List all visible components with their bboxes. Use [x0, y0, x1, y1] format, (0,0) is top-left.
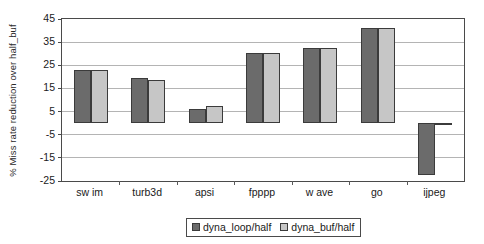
y-axis-tick	[58, 65, 62, 66]
x-axis-tick-label: go	[371, 186, 383, 198]
bar-chart: % Miss rate reduction over half_buf 4535…	[0, 0, 484, 244]
bar-apsi-dyna-loop-half	[189, 109, 206, 123]
bar-ijpeg-dyna-buf-half	[435, 123, 452, 125]
legend-swatch-icon	[192, 223, 200, 231]
legend-entry[interactable]: dyna_loop/half	[192, 222, 271, 233]
plot-area	[61, 18, 465, 182]
y-axis-tick-label: -5	[46, 129, 55, 139]
x-axis-tick	[177, 181, 178, 185]
y-axis-tick-labels: 453525155-5-15-25	[24, 18, 58, 182]
x-axis-tick-label: w ave	[306, 186, 333, 198]
x-axis-tick	[234, 181, 235, 185]
x-axis-tick-label: ijpeg	[423, 186, 445, 198]
y-axis-tick	[58, 181, 62, 182]
x-axis-tick-label: fpppp	[249, 186, 275, 198]
y-axis-tick-label: 5	[49, 106, 55, 116]
x-axis-tick	[292, 181, 293, 185]
bar-fpppp-dyna-buf-half	[263, 53, 280, 124]
bar-ijpeg-dyna-loop-half	[418, 123, 435, 175]
bar-swim-dyna-buf-half	[91, 70, 108, 123]
gridline	[62, 42, 464, 43]
bar-wave-dyna-loop-half	[303, 48, 320, 123]
legend-label: dyna_buf/half	[291, 222, 354, 233]
bar-go-dyna-loop-half	[361, 28, 378, 123]
y-axis-tick-label: 45	[43, 13, 55, 23]
y-axis-tick-label: 25	[43, 59, 55, 69]
x-axis-tick-label: turb3d	[132, 186, 162, 198]
y-axis-title: % Miss rate reduction over half_buf	[0, 0, 24, 200]
y-axis-tick	[58, 19, 62, 20]
gridline	[62, 157, 464, 158]
legend-swatch-icon	[280, 223, 288, 231]
y-axis-tick	[58, 157, 62, 158]
legend-label: dyna_loop/half	[203, 222, 271, 233]
y-axis-tick	[58, 111, 62, 112]
bar-apsi-dyna-buf-half	[206, 106, 223, 123]
x-axis-tick	[349, 181, 350, 185]
bar-turb3d-dyna-loop-half	[131, 78, 148, 123]
chart-legend: dyna_loop/halfdyna_buf/half	[186, 218, 361, 237]
bar-wave-dyna-buf-half	[320, 48, 337, 123]
bar-fpppp-dyna-loop-half	[246, 53, 263, 124]
x-axis-tick-label: apsi	[195, 186, 214, 198]
y-axis-tick-label: -25	[40, 175, 55, 185]
y-axis-title-text: % Miss rate reduction over half_buf	[7, 24, 18, 176]
legend-entry[interactable]: dyna_buf/half	[280, 222, 354, 233]
x-axis-tick-label: sw im	[76, 186, 103, 198]
y-axis-tick	[58, 134, 62, 135]
bar-turb3d-dyna-buf-half	[148, 80, 165, 123]
y-axis-tick	[58, 88, 62, 89]
y-axis-tick	[58, 42, 62, 43]
x-axis-tick	[119, 181, 120, 185]
y-axis-tick-label: -15	[40, 152, 55, 162]
gridline	[62, 134, 464, 135]
x-axis-tick	[407, 181, 408, 185]
x-axis-tick-labels: sw imturb3dapsifppppw avegoijpeg	[61, 186, 465, 204]
y-axis-tick-label: 15	[43, 82, 55, 92]
bar-swim-dyna-loop-half	[74, 70, 91, 123]
y-axis-tick-label: 35	[43, 36, 55, 46]
bar-go-dyna-buf-half	[378, 28, 395, 123]
